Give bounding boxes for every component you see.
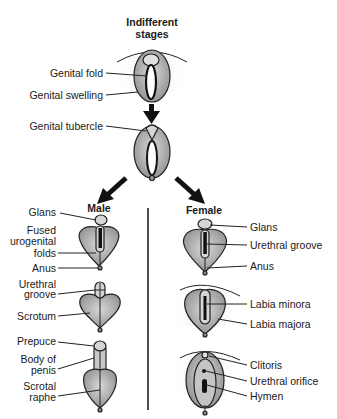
indifferent-stage-2 [134, 125, 170, 181]
heading-female: Female [186, 204, 222, 216]
label-female-anus: Anus [250, 260, 274, 272]
male-stage-2 [80, 282, 120, 332]
label-male-penis: penis [31, 364, 56, 376]
label-genital-tubercle: Genital tubercle [29, 120, 103, 132]
leader-genital-swelling [106, 92, 138, 95]
male-stage-3 [84, 341, 117, 412]
label-male-groove: groove [24, 288, 56, 300]
label-male-urogenital: urogenital [10, 235, 56, 247]
label-genital-fold: Genital fold [50, 67, 103, 79]
label-male-folds: folds [34, 247, 56, 259]
label-male-glans: Glans [29, 206, 56, 218]
label-male-scrotum: Scrotum [17, 310, 56, 322]
label-male-anus: Anus [32, 262, 56, 274]
label-male-raphe: raphe [29, 391, 56, 403]
female-stage-2 [176, 285, 240, 337]
leader-female-glans [210, 225, 247, 227]
leader-female-anus [207, 266, 247, 268]
indifferent-stage-1 [117, 50, 187, 102]
label-male-prepuce: Prepuce [17, 335, 56, 347]
leader-genital-tubercle [106, 126, 146, 131]
arrow-down-icon [143, 104, 160, 124]
leader-male-body-of-penis [58, 358, 94, 369]
label-female-labia-majora: Labia majora [250, 318, 311, 330]
label-female-labia-minora: Labia minora [250, 298, 311, 310]
label-female-clitoris: Clitoris [250, 359, 282, 371]
label-genital-swelling: Genital swelling [29, 89, 103, 101]
label-female-glans: Glans [250, 221, 277, 233]
label-female-hymen: Hymen [250, 390, 283, 402]
label-female-urethral-orifice: Urethral orifice [250, 375, 318, 387]
female-stage-1 [183, 219, 226, 275]
leader-male-urethral-groove [58, 290, 95, 294]
title-line-2: stages [135, 28, 168, 40]
leader-male-prepuce [58, 342, 94, 346]
male-stage-1 [79, 215, 119, 270]
arrow-to-female-icon [176, 178, 205, 204]
leader-male-glans [60, 213, 96, 220]
diagram-canvas: Indifferent stages Genital fold Genital … [0, 0, 337, 419]
label-female-urethral-groove: Urethral groove [250, 239, 323, 251]
title-line-1: Indifferent [126, 16, 178, 28]
arrow-to-male-icon [97, 178, 126, 204]
heading-male: Male [87, 202, 111, 214]
